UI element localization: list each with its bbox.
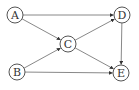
node-b: B (9, 64, 25, 80)
directed-graph: ABCDE (0, 0, 139, 90)
node-label: C (64, 38, 72, 51)
edge-b-to-c (24, 48, 61, 68)
node-d: D (114, 7, 130, 23)
node-e: E (113, 65, 129, 81)
edge-c-to-d (75, 19, 114, 40)
node-label: D (118, 9, 127, 22)
edge-b-to-e (25, 72, 113, 73)
node-label: E (117, 67, 125, 80)
edge-a-to-c (22, 19, 61, 40)
node-label: A (10, 9, 20, 22)
node-a: A (7, 7, 23, 23)
edge-d-to-e (121, 23, 122, 65)
edge-c-to-e (75, 48, 114, 69)
nodes-layer: ABCDE (7, 7, 130, 81)
node-c: C (60, 36, 76, 52)
node-label: B (13, 66, 21, 79)
